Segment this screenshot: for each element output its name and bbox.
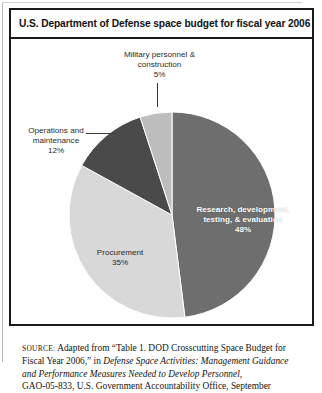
pie-label-military-personnel-line1: Military personnel & xyxy=(92,50,227,60)
outer-rule-top xyxy=(2,2,302,3)
pie-chart-svg xyxy=(9,40,314,326)
pie-label-operations-value: 12% xyxy=(10,146,102,156)
figure-container: U.S. Department of Defense space budget … xyxy=(0,0,322,393)
pie-label-operations-line1: Operations and xyxy=(10,126,102,136)
pie-label-military-personnel-value: 5% xyxy=(92,70,227,80)
pie-label-rdte-value: 48% xyxy=(176,225,310,235)
figure-title: U.S. Department of Defense space budget … xyxy=(19,18,309,29)
pie-label-operations-line2: maintenance xyxy=(10,136,102,146)
pie-label-procurement-value: 35% xyxy=(64,258,176,268)
leader-line-military-personnel xyxy=(157,83,158,107)
source-note-line3: and Performance Measures Needed to Devel… xyxy=(22,368,314,380)
pie-chart xyxy=(9,40,314,326)
source-report-title-part1: Defense Space Activities: Management Gui… xyxy=(103,356,288,366)
pie-label-rdte-line2: testing, & evaluation xyxy=(176,215,310,225)
source-label: SOURCE: xyxy=(22,344,55,353)
pie-label-procurement: Procurement 35% xyxy=(64,248,176,268)
source-note-line2-text: Fiscal Year 2006,” in xyxy=(22,356,103,366)
pie-label-rdte-line1: Research, development, xyxy=(176,205,310,215)
outer-rule-left xyxy=(2,2,3,362)
source-note-line1-text: Adapted from “Table 1. DOD Crosscutting … xyxy=(55,343,286,353)
pie-label-procurement-line1: Procurement xyxy=(64,248,176,258)
title-divider xyxy=(11,37,312,39)
pie-label-military-personnel: Military personnel & construction 5% xyxy=(92,50,227,81)
source-note-line4: GAO-05-833, U.S. Government Accountabili… xyxy=(22,380,314,392)
source-note-line2: Fiscal Year 2006,” in Defense Space Acti… xyxy=(22,355,314,367)
source-report-title-part2: and Performance Measures Needed to Devel… xyxy=(22,369,240,379)
pie-label-rdte: Research, development, testing, & evalua… xyxy=(176,205,310,236)
source-note-line3-text: , xyxy=(240,369,242,379)
source-note-line1: SOURCE: Adapted from “Table 1. DOD Cross… xyxy=(22,342,314,355)
pie-label-operations: Operations and maintenance 12% xyxy=(10,126,102,157)
source-note: SOURCE: Adapted from “Table 1. DOD Cross… xyxy=(22,342,314,393)
pie-label-military-personnel-line2: construction xyxy=(92,60,227,70)
